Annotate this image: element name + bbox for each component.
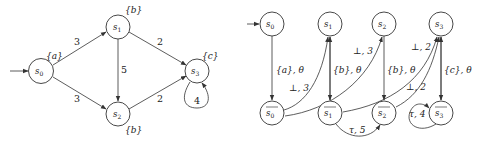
- state-annotation: {a}: [46, 51, 63, 61]
- edge-label: 2: [157, 93, 163, 104]
- edge-label: 2: [157, 36, 163, 47]
- edge-label: ⊥, 2: [411, 42, 431, 52]
- state-node-s3bar: s3: [429, 101, 453, 125]
- edge-label: τ, 4: [409, 109, 426, 119]
- diagram-canvas: 3 3 5 2 2 4 s0 {a} s1 {b} s2 {b} s3 {c}: [0, 0, 485, 144]
- state-node-s2: s2: [106, 102, 130, 126]
- edge-label: ⊥, 3: [289, 83, 309, 93]
- state-node-s2: s2: [372, 12, 396, 36]
- state-node-s3: s3: [429, 12, 453, 36]
- state-node-s0: s0: [29, 59, 54, 84]
- edge-label: 3: [74, 93, 80, 104]
- edge-label: {b}, θ: [333, 65, 362, 75]
- edge-label: τ, 5: [349, 125, 366, 135]
- state-annotation: {b}: [125, 5, 142, 15]
- edge-label: ⊥, 3: [353, 46, 373, 56]
- state-node-s3: s3: [185, 59, 209, 83]
- state-annotation: {b}: [125, 125, 142, 135]
- edge-label: 3: [74, 36, 80, 47]
- edge-label: 4: [194, 95, 200, 106]
- state-node-s1: s1: [106, 15, 130, 39]
- state-annotation: {c}: [202, 51, 219, 61]
- edge-label: {a}, θ: [276, 65, 305, 75]
- edge-label: ⊥, 2: [406, 82, 426, 92]
- edge-label: {c}, θ: [444, 65, 472, 75]
- edge-label: 5: [121, 64, 127, 75]
- right-graph: {a}, θ ⊥, 3 ⊥, 3 {b}, θ ⊥, 2 τ, 5 {b}, θ…: [247, 12, 472, 136]
- state-node-s0bar: s0: [260, 101, 284, 125]
- state-node-s1: s1: [318, 12, 342, 36]
- state-node-s0: s0: [260, 12, 284, 36]
- edge-label: {b}, θ: [387, 65, 416, 75]
- state-node-s2bar: s2: [372, 101, 396, 125]
- left-graph: 3 3 5 2 2 4 s0 {a} s1 {b} s2 {b} s3 {c}: [10, 5, 219, 135]
- state-node-s1bar: s1: [318, 101, 342, 125]
